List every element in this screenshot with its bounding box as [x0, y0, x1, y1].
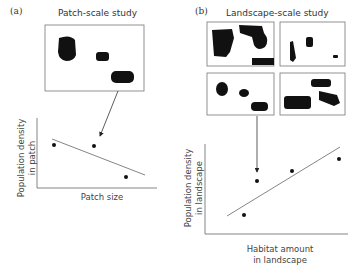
data-point [255, 179, 259, 183]
patch-arrow [100, 91, 118, 136]
data-point [124, 175, 128, 179]
data-point [337, 157, 341, 161]
data-point [92, 144, 96, 148]
panel-a-ylabel: Population density in patch [16, 108, 40, 208]
panel-a-xlabel: Patch size [67, 192, 137, 203]
landscape-maps [207, 22, 345, 115]
data-point [290, 169, 294, 173]
trend-line [52, 139, 145, 175]
data-point [52, 143, 56, 147]
panel-b-xlabel: Habitat amount in landscape [235, 244, 325, 266]
data-point [242, 213, 246, 217]
diagram-canvas [0, 0, 355, 275]
landscape-scale-plot [205, 144, 348, 234]
patch-scale-plot [37, 118, 157, 188]
patch-map [45, 25, 144, 91]
panel-b-ylabel: Population density in landscape [183, 133, 207, 243]
trend-line [227, 147, 340, 216]
